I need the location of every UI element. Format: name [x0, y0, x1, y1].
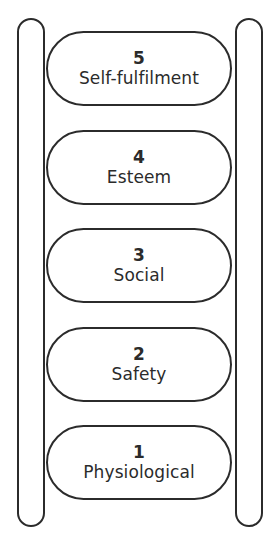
ladder-rung: 3 Social	[46, 228, 232, 303]
rung-level-number: 5	[133, 49, 145, 69]
rung-label: Physiological	[83, 462, 195, 482]
right-rail	[235, 18, 263, 527]
rung-level-number: 3	[133, 246, 145, 266]
rung-level-number: 1	[133, 443, 145, 463]
ladder-rung: 1 Physiological	[46, 425, 232, 500]
ladder-rung: 5 Self-fulfilment	[46, 31, 232, 106]
rung-label: Esteem	[107, 167, 171, 187]
ladder-diagram: 5 Self-fulfilment 4 Esteem 3 Social 2 Sa…	[0, 0, 276, 557]
rung-level-number: 2	[133, 345, 145, 365]
left-rail	[17, 18, 45, 527]
ladder-rung: 4 Esteem	[46, 130, 232, 205]
ladder-rung: 2 Safety	[46, 327, 232, 402]
rung-label: Self-fulfilment	[79, 68, 199, 88]
rung-label: Social	[113, 265, 164, 285]
rung-level-number: 4	[133, 148, 145, 168]
rung-label: Safety	[112, 364, 167, 384]
